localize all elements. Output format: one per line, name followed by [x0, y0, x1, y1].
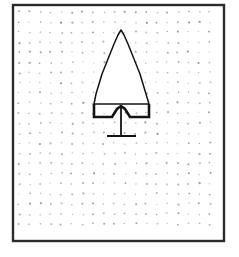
grid-dot — [208, 111, 210, 113]
grid-dot — [103, 123, 104, 124]
grid-dot — [28, 10, 30, 12]
grid-dot — [156, 81, 157, 82]
grid-dot — [187, 50, 189, 52]
grid-dot — [208, 31, 210, 33]
grid-dot — [197, 62, 199, 64]
grid-dot — [18, 42, 20, 44]
grid-dot — [50, 203, 52, 205]
grid-dot — [29, 142, 30, 143]
grid-dot — [145, 81, 146, 82]
grid-dot — [30, 184, 31, 185]
grid-dot — [145, 194, 146, 195]
grid-dot — [198, 92, 200, 94]
grid-dot — [61, 62, 62, 63]
grid-dot — [61, 163, 62, 164]
grid-dot — [39, 152, 40, 153]
grid-dot — [124, 212, 126, 214]
grid-dot — [198, 31, 199, 32]
grid-dot — [187, 41, 188, 42]
grid-dot — [166, 22, 168, 24]
grid-dot — [29, 101, 30, 102]
grid-dot — [71, 71, 73, 73]
grid-dot — [51, 173, 53, 175]
grid-dot — [124, 32, 125, 33]
grid-dot — [208, 92, 210, 94]
grid-dot — [167, 172, 168, 173]
grid-dot — [61, 101, 63, 103]
grid-dot — [61, 92, 62, 93]
grid-dot — [39, 214, 41, 216]
grid-dot — [135, 112, 137, 114]
grid-dot — [188, 192, 190, 194]
grid-dot — [209, 183, 210, 184]
grid-dot — [19, 183, 21, 185]
grid-dot — [60, 41, 62, 43]
grid-dot — [93, 131, 95, 133]
grid-dot — [29, 62, 31, 64]
grid-dot — [177, 21, 179, 23]
grid-dot — [18, 223, 20, 225]
grid-dot — [178, 132, 179, 133]
grid-dot — [92, 21, 94, 23]
grid-dot — [72, 123, 74, 125]
grid-dot — [114, 21, 116, 23]
grid-dot — [49, 32, 50, 33]
grid-dot — [40, 102, 41, 103]
grid-dot — [157, 223, 159, 225]
grid-dot — [157, 103, 158, 104]
grid-dot — [188, 202, 190, 204]
grid-dot — [188, 142, 190, 144]
grid-dot — [39, 143, 41, 145]
grid-dot — [40, 193, 41, 194]
grid-dot — [187, 112, 188, 113]
grid-dot — [81, 22, 83, 24]
grid-dot — [29, 193, 31, 195]
grid-dot — [93, 63, 94, 64]
grid-dot — [71, 193, 73, 195]
grid-dot — [188, 11, 189, 12]
grid-dot — [19, 82, 21, 84]
grid-dot — [146, 173, 148, 175]
grid-dot — [83, 72, 84, 73]
grid-dot — [93, 172, 95, 174]
grid-dot — [167, 102, 169, 104]
grid-dot — [198, 133, 200, 135]
grid-dot — [29, 214, 31, 216]
grid-dot — [60, 22, 62, 24]
grid-dot — [188, 31, 189, 32]
grid-dot — [103, 194, 104, 195]
grid-dot — [70, 83, 72, 85]
grid-dot — [135, 142, 137, 144]
grid-dot — [156, 192, 158, 194]
grid-dot — [176, 72, 178, 74]
grid-dot — [178, 61, 180, 63]
grid-dot — [19, 73, 21, 75]
grid-dot — [114, 182, 115, 183]
grid-dot — [18, 92, 19, 93]
grid-dot — [145, 11, 147, 13]
grid-dot — [50, 83, 51, 84]
grid-dot — [29, 203, 31, 205]
grid-dot — [145, 112, 147, 114]
grid-dot — [177, 153, 178, 154]
grid-dot — [82, 122, 84, 124]
grid-dot — [40, 122, 42, 124]
grid-dot — [92, 32, 94, 34]
grid-dot — [187, 213, 189, 215]
grid-dot — [135, 123, 136, 124]
grid-dot — [39, 63, 41, 65]
grid-dot — [92, 11, 94, 13]
grid-dot — [156, 123, 158, 125]
grid-dot — [19, 143, 20, 144]
grid-dot — [51, 112, 53, 114]
grid-dot — [146, 183, 148, 185]
grid-dot — [92, 152, 94, 154]
grid-dot — [198, 72, 200, 74]
grid-dot — [199, 223, 201, 225]
grid-dot — [92, 82, 93, 83]
grid-dot — [50, 12, 51, 13]
grid-dot — [167, 42, 169, 44]
grid-dot — [157, 92, 159, 94]
grid-dot — [70, 172, 72, 174]
grid-dot — [72, 214, 73, 215]
